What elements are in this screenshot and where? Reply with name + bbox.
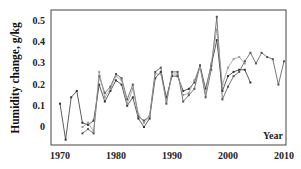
data-point-marker <box>121 79 123 81</box>
data-point-marker <box>188 88 190 90</box>
data-point-marker <box>98 71 100 73</box>
data-point-marker <box>126 105 128 107</box>
data-point-marker <box>244 69 246 71</box>
data-point-marker <box>193 79 195 81</box>
data-point-marker <box>143 126 145 128</box>
data-point-marker <box>93 130 95 132</box>
data-point-marker <box>165 103 167 105</box>
data-point-marker <box>143 122 145 124</box>
data-point-marker <box>205 92 207 94</box>
data-point-marker <box>81 122 83 124</box>
line-series-1 <box>59 39 251 141</box>
data-point-marker <box>177 71 179 73</box>
data-point-marker <box>233 75 235 77</box>
data-point-marker <box>149 118 151 120</box>
data-point-marker <box>221 98 223 100</box>
y-tick-label: 0.1 <box>33 100 46 111</box>
x-tick-label: 2010 <box>274 150 294 161</box>
data-point-marker <box>59 103 61 105</box>
data-point-marker <box>216 16 218 18</box>
data-point-marker <box>81 132 83 134</box>
data-point-marker <box>115 73 117 75</box>
y-axis-label: Humidity change, g/kg <box>9 22 22 134</box>
data-point-marker <box>132 96 134 98</box>
data-point-marker <box>87 128 89 130</box>
data-point-marker <box>227 86 229 88</box>
x-tick-label: 2000 <box>218 150 238 161</box>
data-point-marker <box>115 79 117 81</box>
data-point-marker <box>261 52 263 54</box>
data-point-marker <box>154 73 156 75</box>
data-point-marker <box>249 81 251 83</box>
data-point-marker <box>233 58 235 60</box>
y-tick-label: 0.3 <box>33 57 46 68</box>
data-point-marker <box>227 67 229 69</box>
data-point-marker <box>81 126 83 128</box>
data-point-marker <box>154 71 156 73</box>
data-point-marker <box>171 71 173 73</box>
data-point-marker <box>104 101 106 103</box>
data-point-marker <box>272 58 274 60</box>
y-axis-ticks: 00.10.20.30.40.5 <box>33 15 46 132</box>
data-point-marker <box>221 84 223 86</box>
data-point-marker <box>65 139 67 141</box>
x-tick-label: 1980 <box>106 150 126 161</box>
data-point-marker <box>171 73 173 75</box>
data-point-marker <box>210 62 212 64</box>
data-series <box>59 16 285 141</box>
y-tick-label: 0.5 <box>33 15 46 26</box>
data-point-marker <box>115 75 117 77</box>
data-point-marker <box>93 132 95 134</box>
data-point-marker <box>244 62 246 64</box>
data-point-marker <box>160 73 162 75</box>
data-point-marker <box>126 103 128 105</box>
data-point-marker <box>266 56 268 58</box>
x-tick-label: 1990 <box>162 150 182 161</box>
data-point-marker <box>132 84 134 86</box>
x-axis-ticks: 19701980199020002010 <box>50 150 294 161</box>
data-point-marker <box>205 96 207 98</box>
data-point-marker <box>137 118 139 120</box>
y-tick-label: 0.4 <box>33 36 46 47</box>
data-point-marker <box>109 88 111 90</box>
data-point-marker <box>104 96 106 98</box>
data-point-marker <box>283 60 285 62</box>
data-point-marker <box>121 77 123 79</box>
x-tick-label: 1970 <box>50 150 70 161</box>
data-point-marker <box>177 73 179 75</box>
data-point-marker <box>244 60 246 62</box>
data-point-marker <box>193 88 195 90</box>
y-tick-label: 0 <box>40 121 45 132</box>
data-point-marker <box>277 84 279 86</box>
data-point-marker <box>249 52 251 54</box>
data-point-marker <box>165 101 167 103</box>
humidity-change-chart: 00.10.20.30.40.5 19701980199020002010 Hu… <box>0 0 301 169</box>
line-series-2 <box>81 16 285 135</box>
data-point-marker <box>160 67 162 69</box>
data-point-marker <box>255 62 257 64</box>
x-axis-label: Year <box>263 130 284 141</box>
data-point-marker <box>87 122 89 124</box>
data-point-marker <box>182 101 184 103</box>
data-point-marker <box>188 94 190 96</box>
data-point-marker <box>182 94 184 96</box>
data-point-marker <box>199 67 201 69</box>
data-point-marker <box>233 71 235 73</box>
y-tick-label: 0.2 <box>33 79 46 90</box>
data-point-marker <box>188 92 190 94</box>
data-point-marker <box>149 115 151 117</box>
data-point-marker <box>132 88 134 90</box>
data-point-marker <box>70 96 72 98</box>
data-point-marker <box>137 113 139 115</box>
plot-frame <box>51 10 286 145</box>
data-point-marker <box>216 28 218 30</box>
data-point-marker <box>199 65 201 67</box>
data-point-marker <box>238 56 240 58</box>
data-point-marker <box>227 75 229 77</box>
data-point-marker <box>238 71 240 73</box>
data-point-marker <box>76 90 78 92</box>
